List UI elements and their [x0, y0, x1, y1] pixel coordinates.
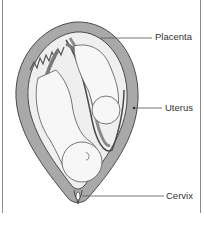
placenta-label: Placenta — [155, 32, 192, 42]
cervix-label: Cervix — [166, 191, 193, 201]
uterus-label: Uterus — [165, 103, 193, 113]
twin-1-head — [62, 142, 102, 182]
twin-2-head — [92, 96, 120, 124]
